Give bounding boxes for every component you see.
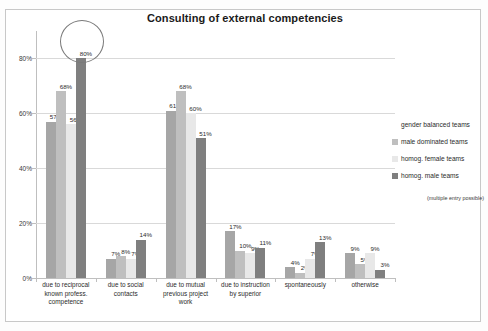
- bar-value-label: 17%: [224, 223, 246, 230]
- bar[interactable]: [305, 259, 315, 278]
- bar[interactable]: [126, 259, 136, 278]
- x-axis-tick: [216, 278, 217, 282]
- bar[interactable]: [76, 58, 86, 278]
- x-axis-tick: [395, 278, 396, 282]
- y-axis-tick-label: 20%: [2, 220, 32, 227]
- legend-note: (multiple entry possible): [396, 195, 484, 201]
- legend-swatch-icon: [392, 173, 398, 179]
- bar[interactable]: [46, 122, 56, 278]
- x-axis-tick: [156, 278, 157, 282]
- bar[interactable]: [225, 231, 235, 278]
- plot-area: 57%68%56%80%7%8%7%14%61%68%60%51%17%10%9…: [36, 31, 395, 278]
- x-axis-category-label: due to socialcontacts: [96, 281, 156, 298]
- legend-label: gender balanced teams: [401, 121, 470, 128]
- chart-screenshot: Consulting of external competencies 0%20…: [0, 0, 488, 331]
- chart-title: Consulting of external competencies: [120, 12, 370, 24]
- bar-value-label: 9%: [344, 245, 366, 252]
- category-label-line: contacts: [96, 290, 156, 299]
- legend-item[interactable]: homog. male teams: [392, 167, 484, 184]
- bar-group: 9%5%9%3%: [335, 31, 395, 278]
- bar[interactable]: [176, 91, 186, 278]
- x-axis-tick: [36, 278, 37, 282]
- bar-value-label: 11%: [254, 239, 276, 246]
- bar[interactable]: [66, 124, 76, 278]
- y-axis-labels: 0%20%40%60%80%: [0, 31, 32, 278]
- bar-value-label: 3%: [374, 261, 396, 268]
- bar[interactable]: [235, 251, 245, 278]
- category-label-line: work: [156, 298, 216, 307]
- category-label-line: competence: [36, 298, 96, 307]
- legend-item[interactable]: gender balanced teams: [392, 116, 484, 133]
- bar[interactable]: [245, 253, 255, 278]
- x-axis-category-label: due to mutualprevious projectwork: [156, 281, 216, 307]
- y-axis-tick-label: 0%: [2, 275, 32, 282]
- x-axis-category-labels: due to reciprocalknown profess.competenc…: [36, 281, 395, 325]
- x-axis-tick: [335, 278, 336, 282]
- bar[interactable]: [355, 264, 365, 278]
- bar[interactable]: [106, 259, 116, 278]
- bar-group: 4%2%7%13%: [275, 31, 335, 278]
- category-label-line: known profess.: [36, 290, 96, 299]
- bar-value-label: 68%: [175, 83, 197, 90]
- y-axis-tick-label: 80%: [2, 55, 32, 62]
- x-axis-category-label: otherwise: [335, 281, 395, 290]
- bar-group: 57%68%56%80%: [36, 31, 96, 278]
- category-label-line: previous project: [156, 290, 216, 299]
- bar[interactable]: [116, 256, 126, 278]
- x-axis-category-label: due to reciprocalknown profess.competenc…: [36, 281, 96, 307]
- legend-swatch-icon: [392, 156, 398, 162]
- bar-group: 17%10%9%11%: [216, 31, 276, 278]
- y-axis-tick-label: 40%: [2, 165, 32, 172]
- category-label-line: due to reciprocal: [36, 281, 96, 290]
- legend-label: homog. female teams: [401, 155, 464, 162]
- bar[interactable]: [186, 113, 196, 278]
- x-axis-category-label: spontaneously: [275, 281, 335, 290]
- category-label-line: by superior: [216, 290, 276, 299]
- category-label-line: due to instruction: [216, 281, 276, 290]
- bar[interactable]: [166, 111, 176, 278]
- category-label-line: due to social: [96, 281, 156, 290]
- x-axis-tick: [96, 278, 97, 282]
- bar-value-label: 51%: [195, 130, 217, 137]
- category-label-line: spontaneously: [275, 281, 335, 290]
- bar-value-label: 80%: [75, 50, 97, 57]
- category-label-line: otherwise: [335, 281, 395, 290]
- bar[interactable]: [315, 242, 325, 278]
- bar[interactable]: [375, 270, 385, 278]
- legend-label: homog. male teams: [401, 172, 459, 179]
- bar[interactable]: [255, 248, 265, 278]
- x-axis-category-label: due to instructionby superior: [216, 281, 276, 298]
- bar-value-label: 14%: [135, 231, 157, 238]
- bar[interactable]: [196, 138, 206, 278]
- bar-value-label: 68%: [55, 83, 77, 90]
- bar-value-label: 9%: [364, 245, 386, 252]
- legend-item[interactable]: homog. female teams: [392, 150, 484, 167]
- x-axis-tick: [275, 278, 276, 282]
- legend-label: male dominated teams: [401, 138, 468, 145]
- bar-group: 7%8%7%14%: [96, 31, 156, 278]
- bar-value-label: 60%: [185, 105, 207, 112]
- legend-swatch-icon: [392, 139, 398, 145]
- chart-legend: gender balanced teamsmale dominated team…: [392, 116, 484, 184]
- bar-value-label: 13%: [314, 234, 336, 241]
- bar-group: 61%68%60%51%: [156, 31, 216, 278]
- category-label-line: due to mutual: [156, 281, 216, 290]
- y-axis-tick-label: 60%: [2, 110, 32, 117]
- bar[interactable]: [136, 240, 146, 278]
- legend-item[interactable]: male dominated teams: [392, 133, 484, 150]
